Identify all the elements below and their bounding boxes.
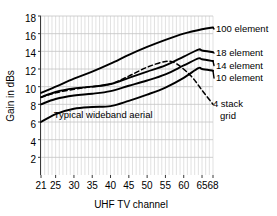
y-tick-label-2: 2: [30, 154, 36, 165]
y-tick-label-4: 4: [30, 137, 36, 148]
gain-vs-channel-chart: 18 16 14 12 10 8 6 4 2 21253035404550556…: [0, 0, 277, 216]
series-label-14-element: 14 element: [216, 60, 263, 71]
series-label-10-element: 10 element: [216, 72, 263, 83]
y-tick-label-8: 8: [30, 101, 36, 112]
x-tick-label-60: 60: [178, 180, 190, 191]
y-tick-label-6: 6: [30, 119, 36, 130]
series-label-18-element: 18 element: [216, 47, 263, 58]
chart-container: 18 16 14 12 10 8 6 4 2 21253035404550556…: [0, 0, 277, 216]
y-tick-label-16: 16: [25, 31, 37, 42]
x-tick-label-65: 65: [196, 180, 208, 191]
y-axis-title: Gain in dBs: [5, 70, 16, 122]
x-axis-title: UHF TV channel: [94, 199, 168, 210]
annotation-typical-wideband-aerial: Typical wideband aerial: [54, 109, 153, 120]
x-tick-label-21: 21: [35, 180, 47, 191]
x-tick-label-25: 25: [50, 180, 62, 191]
x-tick-label-35: 35: [87, 180, 99, 191]
series-label-4-stack: 4 stack: [213, 98, 243, 109]
series-label-100-element: 100 element: [216, 23, 269, 34]
y-tick-label-12: 12: [25, 66, 37, 77]
y-tick-label-14: 14: [25, 48, 37, 59]
series-label-4-stack-grid: grid: [220, 110, 236, 121]
x-tick-label-55: 55: [160, 180, 172, 191]
x-tick-label-68: 68: [207, 180, 219, 191]
x-tick-label-50: 50: [142, 180, 154, 191]
x-tick-label-30: 30: [68, 180, 80, 191]
x-tick-label-45: 45: [123, 180, 135, 191]
y-tick-label-10: 10: [25, 84, 37, 95]
x-tick-label-40: 40: [105, 180, 117, 191]
y-tick-label-18: 18: [25, 13, 37, 24]
